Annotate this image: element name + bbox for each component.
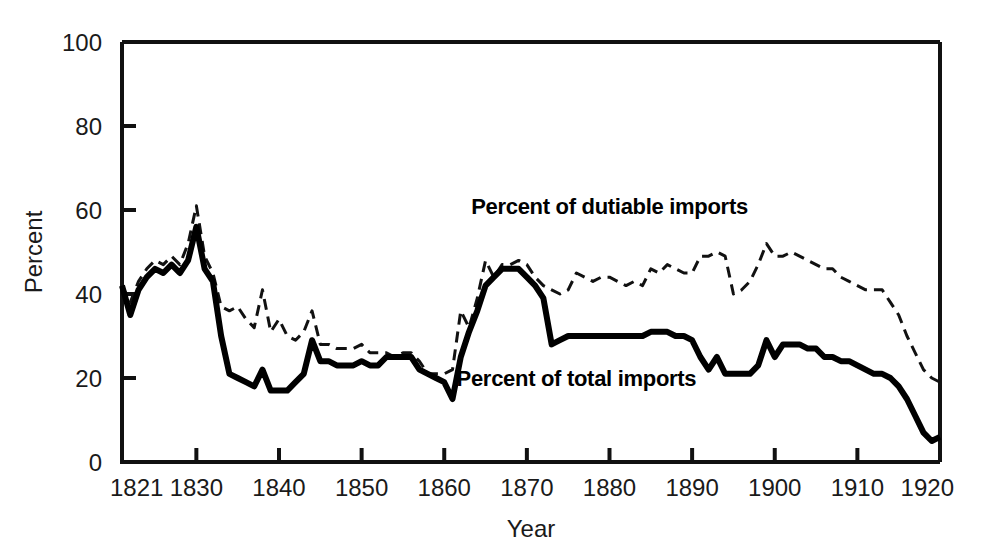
x-tick-label-1890: 1890 bbox=[665, 474, 718, 501]
x-tick-label-1920: 1920 bbox=[901, 474, 954, 501]
y-tick-label-80: 80 bbox=[75, 113, 102, 140]
x-tick-label-1850: 1850 bbox=[335, 474, 388, 501]
x-tick-label-1880: 1880 bbox=[583, 474, 636, 501]
x-tick-label-1900: 1900 bbox=[748, 474, 801, 501]
series-annotation-1: Percent of total imports bbox=[457, 366, 697, 391]
x-tick-label-1870: 1870 bbox=[500, 474, 553, 501]
x-tick-label-1830: 1830 bbox=[170, 474, 223, 501]
x-tick-label-1821: 1821 bbox=[110, 474, 163, 501]
tariff-rates-chart: 020406080100 182118301840185018601870188… bbox=[0, 0, 993, 552]
y-tick-label-100: 100 bbox=[62, 29, 102, 56]
chart-canvas: 020406080100 182118301840185018601870188… bbox=[0, 0, 993, 552]
y-axis-title-group: Percent bbox=[20, 210, 47, 293]
y-axis-title: Percent bbox=[20, 210, 47, 293]
y-tick-label-20: 20 bbox=[75, 365, 102, 392]
x-axis-title: Year bbox=[507, 515, 556, 542]
x-axis-ticks bbox=[196, 448, 857, 462]
series-line-1 bbox=[122, 227, 940, 441]
data-series-group bbox=[122, 206, 940, 441]
y-tick-label-0: 0 bbox=[89, 449, 102, 476]
y-axis-tick-labels: 020406080100 bbox=[62, 29, 102, 476]
x-tick-label-1840: 1840 bbox=[252, 474, 305, 501]
series-annotation-0: Percent of dutiable imports bbox=[471, 194, 748, 219]
x-axis-tick-labels: 1821183018401850186018701880189019001910… bbox=[110, 474, 954, 501]
plot-frame bbox=[122, 42, 940, 462]
y-tick-label-60: 60 bbox=[75, 197, 102, 224]
y-tick-label-40: 40 bbox=[75, 281, 102, 308]
series-line-0 bbox=[122, 206, 940, 382]
axis-lines bbox=[122, 42, 940, 462]
x-tick-label-1860: 1860 bbox=[418, 474, 471, 501]
x-tick-label-1910: 1910 bbox=[831, 474, 884, 501]
y-axis-ticks bbox=[122, 126, 136, 378]
